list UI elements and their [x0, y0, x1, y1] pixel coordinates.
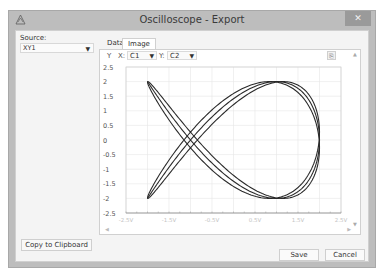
y-channel-value: C2: [170, 52, 179, 60]
export-image-icon[interactable]: ⎘: [327, 51, 336, 60]
y-channel-label: Y:: [159, 52, 165, 60]
x-tick-label: -1.5V: [162, 217, 177, 223]
cancel-button[interactable]: Cancel: [325, 249, 365, 261]
x-channel-dropdown[interactable]: C1 ▼: [127, 51, 157, 60]
x-tick-label: -0.5V: [205, 217, 220, 223]
y-tick-label: -2: [103, 195, 109, 203]
y-tick-label: -1.5: [103, 180, 116, 188]
chevron-down-icon: ▼: [85, 44, 90, 53]
y-tick-label: -1: [103, 166, 109, 174]
dialog-body: Source: XY1 ▼ Copy to Clipboard Data Ima…: [15, 30, 369, 262]
x-tick-label: 2.5V: [335, 217, 348, 223]
y-tick-label: 2: [103, 78, 107, 86]
window-title: Oscilloscope - Export: [9, 14, 375, 25]
xy-plot: 2.521.510.50-0.5-1-1.5-2-2.5-2.5V-1.5V-0…: [100, 61, 352, 237]
close-button[interactable]: ✕: [345, 11, 371, 26]
scroll-up-icon[interactable]: ▲: [353, 51, 357, 57]
scroll-down-icon[interactable]: ▼: [353, 221, 357, 227]
y-axis-label: Y: [107, 52, 111, 60]
x-channel-value: C1: [130, 52, 139, 60]
scroll-left-icon[interactable]: ◀: [105, 226, 109, 232]
copy-to-clipboard-button[interactable]: Copy to Clipboard: [21, 239, 92, 251]
y-tick-label: 0: [103, 137, 107, 145]
y-tick-label: -2.5: [103, 210, 116, 218]
horizontal-scrollbar[interactable]: ◀ ▶: [101, 226, 353, 233]
chevron-down-icon: ▼: [149, 52, 154, 60]
export-dialog: Oscilloscope - Export ✕ Source: XY1 ▼ Co…: [8, 10, 376, 268]
y-tick-label: 0.5: [103, 122, 113, 130]
chevron-down-icon: ▼: [189, 52, 194, 60]
x-tick-label: 1.5V: [292, 217, 305, 223]
y-tick-label: -0.5: [103, 151, 116, 159]
source-value: XY1: [23, 44, 36, 52]
scroll-right-icon[interactable]: ▶: [347, 226, 351, 232]
vertical-scrollbar[interactable]: ▲ ▼: [352, 51, 359, 227]
y-channel-dropdown[interactable]: C2 ▼: [167, 51, 197, 60]
source-dropdown[interactable]: XY1 ▼: [20, 43, 94, 53]
title-bar[interactable]: Oscilloscope - Export ✕: [9, 11, 375, 30]
y-tick-label: 2.5: [103, 64, 113, 72]
x-tick-label: 0.5V: [249, 217, 262, 223]
image-panel: Y X: C1 ▼ Y: C2 ▼ ⎘ 2.521.510.50-0.5-1-1…: [99, 49, 361, 235]
save-button[interactable]: Save: [279, 249, 319, 261]
x-channel-label: X:: [118, 52, 125, 60]
source-label: Source:: [20, 34, 46, 42]
y-tick-label: 1: [103, 107, 107, 115]
x-tick-label: -2.5V: [119, 217, 134, 223]
y-tick-label: 1.5: [103, 93, 113, 101]
